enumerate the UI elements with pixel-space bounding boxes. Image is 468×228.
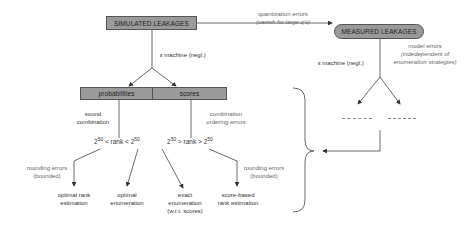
sound-combination-label: sound combination [70,110,116,126]
condition-right: 250 > rank > 250 [167,136,213,145]
condition-left: 250 < rank < 250 [94,136,140,145]
outcome-optimal-enumeration: optimal enumeration [103,191,151,207]
outcome-exact-enumeration: exact enumeration (w.r.t. scores) [162,191,208,215]
simulated-leakages-node: SIMULATED LEAKAGES [106,16,197,30]
outcome-score-based-rank-estimation: score-based rank estimation [212,191,264,207]
placeholder-outcome-right [388,118,416,119]
machine-error-left-label: ε machine (negl.) [160,51,206,59]
machine-error-right-label: ε machine (negl.) [318,59,364,67]
rounding-errors-left-label: rounding errors (bounded) [22,164,72,180]
scores-node: scores [152,87,227,100]
outcome-optimal-rank-estimation: optimal rank estimation [50,191,98,207]
quantization-errors-label: quantization errors (vanish for large q'… [238,10,328,26]
rounding-errors-right-label: rounding errors (bounded) [237,164,291,180]
combination-ordering-errors-label: combination ordering errors [196,110,256,126]
measured-leakages-node: MEASURED LEAKAGES [334,24,424,39]
probabilities-node: probabilities [80,87,153,100]
placeholder-outcome-left [342,118,372,119]
model-errors-label: model errors (indedependent of enumerati… [382,42,468,66]
